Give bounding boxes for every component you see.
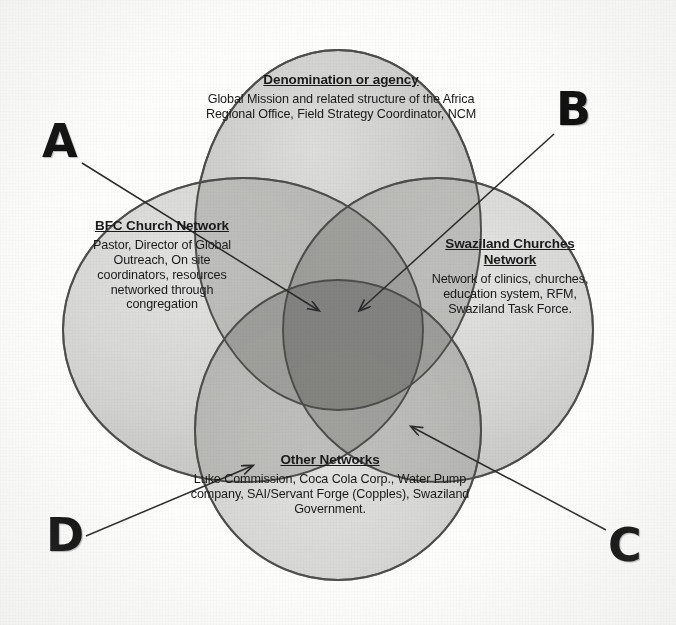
scanned-venn-diagram: Denomination or agency Global Mission an… <box>0 0 676 625</box>
venn-diagram-graphic <box>0 0 676 625</box>
